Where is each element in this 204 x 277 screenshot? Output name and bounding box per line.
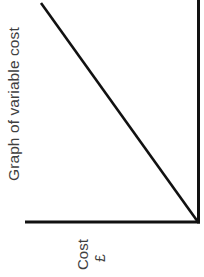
y-axis-label: Cost bbox=[74, 239, 91, 270]
variable-cost-line bbox=[41, 3, 198, 222]
y-axis-unit-label: £ bbox=[92, 254, 108, 262]
chart-title: Graph of variable cost bbox=[5, 27, 23, 181]
variable-cost-chart bbox=[0, 0, 204, 277]
